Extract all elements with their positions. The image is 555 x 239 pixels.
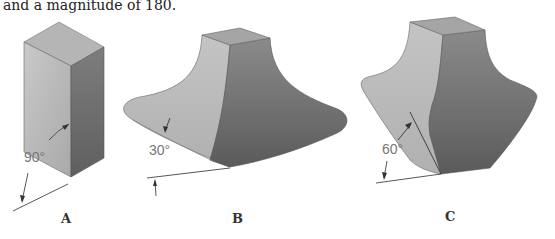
tapered-shapes-diagram: 90° A 30° B 60° C [0, 0, 555, 239]
figure-b-tick-arrowhead [153, 179, 157, 186]
figure-a-label: A [60, 211, 72, 226]
figure-b-label: B [232, 211, 243, 226]
figure-c: 60° C [361, 17, 537, 224]
figure-a: 90° A [13, 22, 104, 226]
figure-c-tick-arrowhead [382, 172, 387, 180]
figure-c-right-face [429, 30, 537, 174]
figure-a-tick-arrowhead [20, 195, 25, 203]
figure-a-angle-label: 90° [24, 149, 45, 165]
figure-b-leader-line [147, 168, 230, 178]
figure-b-angle-label: 30° [149, 142, 170, 158]
figure-b-right-face [210, 38, 347, 167]
figure-b: 30° B [124, 28, 347, 226]
figure-a-right-face [71, 47, 104, 177]
figure-c-label: C [445, 209, 455, 224]
figure-c-angle-label: 60° [382, 141, 403, 157]
